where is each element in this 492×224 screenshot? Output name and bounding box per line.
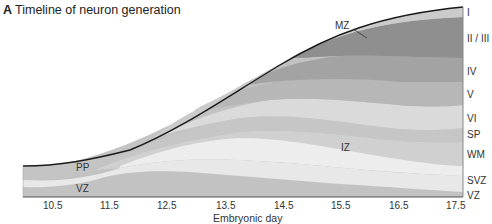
tick-16-5: 16.5 xyxy=(389,200,409,211)
x-axis-title: Embryonic day xyxy=(213,212,283,224)
wm-label: WM xyxy=(467,149,485,160)
layer-vi-label: VI xyxy=(467,113,476,124)
tick-13-5: 13.5 xyxy=(216,200,236,211)
vz-inner-label: VZ xyxy=(76,183,89,194)
tick-15-5: 15.5 xyxy=(331,200,351,211)
neuron-generation-chart: MZ PP VZ IZ I II / III IV V VI SP WM SVZ… xyxy=(0,0,492,224)
layer-ii-iii-label: II / III xyxy=(467,33,489,44)
tick-11-5: 11.5 xyxy=(100,200,119,211)
tick-14-5: 14.5 xyxy=(274,200,294,211)
tick-10-5: 10.5 xyxy=(43,200,63,211)
tick-17-5: 17.5 xyxy=(446,200,466,211)
layer-v-label: V xyxy=(467,89,474,100)
vz-label: VZ xyxy=(467,190,480,201)
svz-label: SVZ xyxy=(467,175,486,186)
pp-label: PP xyxy=(76,162,90,173)
mz-label: MZ xyxy=(335,20,349,31)
layer-iv-label: IV xyxy=(467,66,477,77)
tick-12-5: 12.5 xyxy=(157,200,177,211)
iz-label: IZ xyxy=(341,142,350,153)
sp-label: SP xyxy=(467,129,481,140)
layer-i-label: I xyxy=(467,7,470,18)
